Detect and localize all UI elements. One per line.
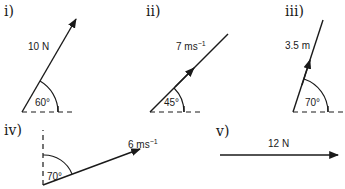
angle-label: 70° bbox=[47, 171, 62, 182]
angle-label: 70° bbox=[305, 97, 320, 108]
numeral-i: i) bbox=[4, 3, 14, 19]
magnitude-value: 7 ms bbox=[176, 41, 198, 52]
unit-exponent: −1 bbox=[198, 40, 206, 47]
magnitude-label: 7 ms−1 bbox=[176, 40, 206, 52]
unit-exponent: −1 bbox=[150, 138, 158, 145]
diagram-i: i) 10 N 60° bbox=[4, 3, 76, 112]
numeral-iv: iv) bbox=[4, 122, 22, 138]
diagram-v: v) 12 N bbox=[215, 123, 338, 155]
numeral-iii: iii) bbox=[285, 3, 304, 19]
vector-mid-arrow bbox=[175, 68, 194, 87]
magnitude-label: 3.5 m bbox=[285, 40, 310, 51]
magnitude-label: 12 N bbox=[268, 138, 289, 149]
magnitude-label: 6 ms−1 bbox=[128, 138, 158, 150]
angle-label: 45° bbox=[164, 97, 179, 108]
angle-label: 60° bbox=[35, 97, 50, 108]
numeral-ii: ii) bbox=[146, 3, 160, 19]
magnitude-label: 10 N bbox=[28, 41, 49, 52]
diagram-ii: ii) 7 ms−1 45° bbox=[146, 3, 228, 112]
diagram-iv: iv) 6 ms−1 70° bbox=[4, 122, 158, 185]
diagram-iii: iii) 3.5 m 70° bbox=[285, 3, 343, 112]
vector-diagrams-canvas: i) 10 N 60° ii) 7 ms−1 45° iii) 3.5 m 70… bbox=[0, 0, 345, 189]
magnitude-value: 6 ms bbox=[128, 139, 150, 150]
numeral-v: v) bbox=[215, 123, 229, 139]
